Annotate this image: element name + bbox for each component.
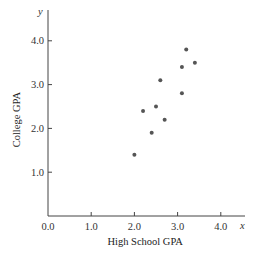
y-tick-label: 4.0	[31, 35, 44, 46]
x-axis-title: High School GPA	[107, 236, 183, 247]
x-tick-label: 4.0	[214, 221, 227, 232]
y-tick-label: 2.0	[31, 123, 44, 134]
x-tick-label: 2.0	[128, 221, 141, 232]
x-tick-label: 3.0	[171, 221, 184, 232]
x-tick-label: 0.0	[41, 221, 54, 232]
data-point	[193, 61, 197, 65]
data-point	[163, 118, 167, 122]
y-axis-title: College GPA	[11, 92, 22, 148]
data-point	[141, 109, 145, 113]
y-ticks: 1.02.03.04.0	[31, 35, 52, 177]
data-point	[158, 78, 162, 82]
x-axis-variable: x	[239, 220, 245, 231]
data-point	[150, 131, 154, 135]
data-point	[180, 91, 184, 95]
y-tick-label: 1.0	[31, 167, 44, 178]
data-point	[132, 153, 136, 157]
data-point	[180, 65, 184, 69]
data-point	[184, 48, 188, 52]
x-tick-label: 1.0	[85, 221, 98, 232]
data-points	[132, 48, 196, 157]
x-ticks: 0.01.02.03.04.0	[41, 212, 227, 232]
data-point	[154, 105, 158, 109]
y-axis-variable: y	[37, 6, 43, 17]
y-tick-label: 3.0	[31, 79, 44, 90]
scatter-chart: 0.01.02.03.04.0 1.02.03.04.0 x y High Sc…	[0, 0, 262, 262]
